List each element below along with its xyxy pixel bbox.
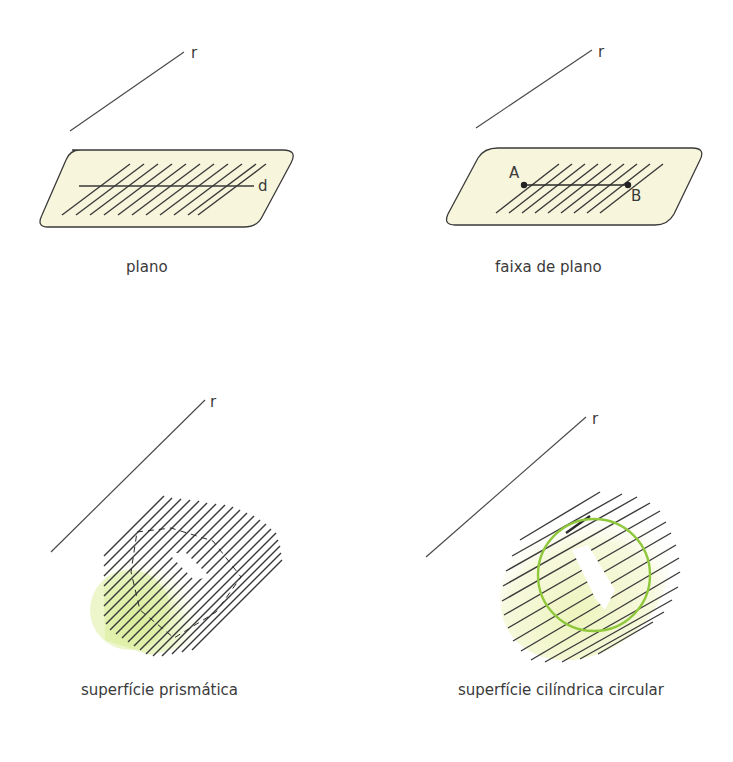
caption-faixa-de-plano: faixa de plano [495, 258, 602, 276]
point-a-label: A [509, 164, 520, 182]
line-r-label: r [191, 44, 198, 62]
point-b-label: B [631, 187, 641, 205]
figure-superficie-cilindrica-circular: r superfície cilíndrica circular [426, 410, 702, 699]
caption-superficie-prismatica: superfície prismática [81, 681, 238, 699]
line-r-label: r [210, 393, 217, 411]
figure-faixa-de-plano: r A B faixa de plano [447, 43, 702, 276]
plane-parallelogram [447, 148, 702, 225]
line-r [51, 400, 205, 552]
point-a [521, 182, 527, 188]
line-r-label: r [592, 410, 599, 428]
line-r [476, 50, 592, 128]
line-d-label: d [258, 177, 268, 195]
caption-superficie-cilindrica-circular: superfície cilíndrica circular [458, 681, 665, 699]
caption-plano: plano [126, 258, 168, 276]
line-r [70, 52, 184, 131]
figure-plano: r d plano [40, 44, 293, 276]
figure-superficie-prismatica: r superfície prism [51, 393, 282, 699]
line-r-label: r [598, 43, 605, 61]
